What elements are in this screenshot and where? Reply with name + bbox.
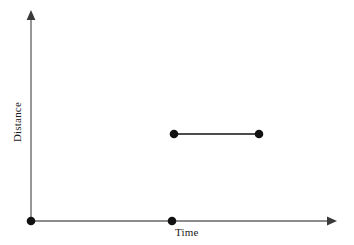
x-axis-arrowhead-icon [327, 217, 337, 226]
x-axis-label: Time [175, 226, 199, 238]
chart-canvas [0, 0, 354, 245]
y-axis-label: Distance [10, 94, 24, 150]
segment-start-point-marker [170, 130, 179, 139]
origin-point-marker [27, 217, 36, 226]
time-axis-point-marker [168, 217, 177, 226]
distance-time-chart: Time Distance [0, 0, 354, 245]
y-axis-arrowhead-icon [27, 10, 36, 20]
segment-end-point-marker [255, 130, 264, 139]
